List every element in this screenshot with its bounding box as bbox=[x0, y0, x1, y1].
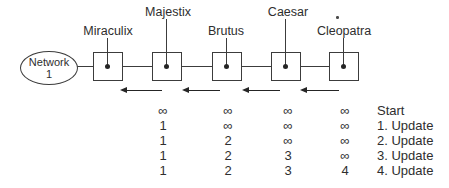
table-row: ∞ ∞ ∞ ∞ Start bbox=[143, 103, 449, 118]
label-line-miraculix bbox=[107, 38, 108, 66]
left-arrow-icon bbox=[242, 87, 280, 94]
label-line-majestix bbox=[166, 19, 167, 66]
distance-cell: ∞ bbox=[268, 103, 308, 118]
routing-diagram: Network 1 Miraculix Majestix Brutus Caes… bbox=[0, 0, 449, 188]
label-line-brutus bbox=[226, 38, 227, 66]
row-label: 1. Update bbox=[377, 118, 433, 133]
router-label-caesar: Caesar bbox=[268, 5, 308, 19]
distance-cell: ∞ bbox=[268, 118, 308, 133]
router-dot-miraculix bbox=[105, 64, 110, 69]
left-arrow-icon bbox=[120, 87, 162, 94]
distance-cell: 1 bbox=[143, 118, 183, 133]
row-label: 2. Update bbox=[377, 133, 433, 148]
distance-cell: ∞ bbox=[208, 118, 248, 133]
router-dot-caesar bbox=[283, 64, 288, 69]
distance-cell: ∞ bbox=[325, 148, 365, 163]
label-line-caesar bbox=[285, 19, 286, 66]
distance-cell: 3 bbox=[268, 163, 308, 178]
left-arrow-icon bbox=[182, 87, 220, 94]
table-row: 1 2 ∞ ∞ 2. Update bbox=[143, 133, 449, 148]
distance-cell: 1 bbox=[143, 163, 183, 178]
distance-cell: 3 bbox=[268, 148, 308, 163]
router-dot-brutus bbox=[224, 64, 229, 69]
network-cloud: Network 1 bbox=[20, 51, 78, 85]
router-label-majestix: Majestix bbox=[145, 5, 191, 19]
distance-cell: 1 bbox=[143, 148, 183, 163]
distance-cell: ∞ bbox=[143, 103, 183, 118]
distance-table: ∞ ∞ ∞ ∞ Start 1 ∞ ∞ ∞ 1. Update 1 2 ∞ ∞ … bbox=[143, 103, 449, 178]
distance-cell: ∞ bbox=[268, 133, 308, 148]
router-dot-cleopatra bbox=[341, 64, 346, 69]
router-label-cleopatra: Cleopatra bbox=[317, 24, 371, 38]
network-label-line2: 1 bbox=[46, 68, 52, 80]
distance-cell: 1 bbox=[143, 133, 183, 148]
table-row: 1 ∞ ∞ ∞ 1. Update bbox=[143, 118, 449, 133]
row-label: 3. Update bbox=[377, 148, 433, 163]
router-label-miraculix: Miraculix bbox=[83, 24, 132, 38]
distance-cell: 2 bbox=[208, 148, 248, 163]
print-speck bbox=[336, 16, 339, 19]
label-line-cleopatra bbox=[343, 38, 344, 66]
network-label-line1: Network bbox=[29, 56, 69, 68]
table-row: 1 2 3 4 4. Update bbox=[143, 163, 449, 178]
row-label: Start bbox=[377, 103, 404, 118]
distance-cell: 4 bbox=[325, 163, 365, 178]
row-label: 4. Update bbox=[377, 163, 433, 178]
distance-cell: 2 bbox=[208, 133, 248, 148]
table-row: 1 2 3 ∞ 3. Update bbox=[143, 148, 449, 163]
router-label-brutus: Brutus bbox=[208, 24, 244, 38]
distance-cell: 2 bbox=[208, 163, 248, 178]
distance-cell: ∞ bbox=[325, 103, 365, 118]
left-arrow-icon bbox=[300, 87, 339, 94]
router-dot-majestix bbox=[164, 64, 169, 69]
distance-cell: ∞ bbox=[325, 118, 365, 133]
distance-cell: ∞ bbox=[208, 103, 248, 118]
distance-cell: ∞ bbox=[325, 133, 365, 148]
